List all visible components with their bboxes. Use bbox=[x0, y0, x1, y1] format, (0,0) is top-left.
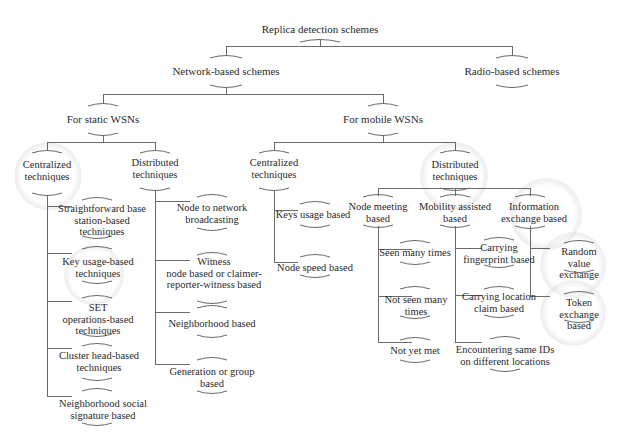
node-token-exchange-based: Token exchange based bbox=[553, 297, 606, 332]
node-mobile-centralized: Centralized techniques bbox=[250, 157, 298, 180]
node-neighborhood-based: Neighborhood based bbox=[168, 318, 255, 330]
node-mobility-assisted-based: Mobility assisted based bbox=[419, 201, 491, 224]
node-static-centralized: Centralized techniques bbox=[23, 159, 71, 182]
node-radio-based: Radio-based schemes bbox=[465, 65, 560, 77]
node-straightforward-base-station: Straightforward base station-based techn… bbox=[58, 203, 146, 238]
node-set-operations: SET operations-based techniques bbox=[62, 302, 133, 337]
node-mobile-distributed: Distributed techniques bbox=[431, 159, 478, 182]
node-neighborhood-social-signature: Neighborhood social signature based bbox=[59, 398, 147, 421]
node-carrying-location-claim: Carrying location claim based bbox=[462, 291, 536, 314]
node-mobile-wsns: For mobile WSNs bbox=[343, 113, 423, 125]
node-information-exchange-based: Information exchange based bbox=[501, 201, 567, 224]
node-key-usage-techniques: Key usage-based techniques bbox=[62, 256, 133, 279]
node-node-speed-based: Node speed based bbox=[277, 262, 353, 274]
node-generation-group-based: Generation or group based bbox=[169, 366, 254, 389]
node-node-to-network-broadcasting: Node to network broadcasting bbox=[177, 202, 248, 225]
node-carrying-fingerprint: Carrying fingerprint based bbox=[463, 242, 534, 265]
node-random-value-exchange: Random value exchange bbox=[553, 246, 606, 281]
node-not-seen-many-times: Not seen many times bbox=[385, 294, 448, 317]
node-seen-many-times: Seen many times bbox=[379, 247, 451, 259]
node-keys-usage-based: Keys usage based bbox=[276, 209, 351, 221]
node-node-meeting-based: Node meeting based bbox=[348, 201, 407, 224]
node-encountering-same-ids: Encountering same IDs on different locat… bbox=[456, 344, 555, 367]
node-network-based: Network-based schemes bbox=[172, 65, 279, 77]
node-cluster-head: Cluster head-based techniques bbox=[59, 350, 139, 373]
node-static-wsns: For static WSNs bbox=[67, 113, 140, 125]
node-static-distributed: Distributed techniques bbox=[131, 157, 178, 180]
node-witness-based: Witness node based or claimer- reporter-… bbox=[166, 256, 262, 291]
node-not-yet-met: Not yet met bbox=[390, 345, 440, 357]
node-root: Replica detection schemes bbox=[262, 23, 379, 35]
replica-detection-taxonomy-diagram: Replica detection schemes Network-based … bbox=[0, 0, 632, 441]
